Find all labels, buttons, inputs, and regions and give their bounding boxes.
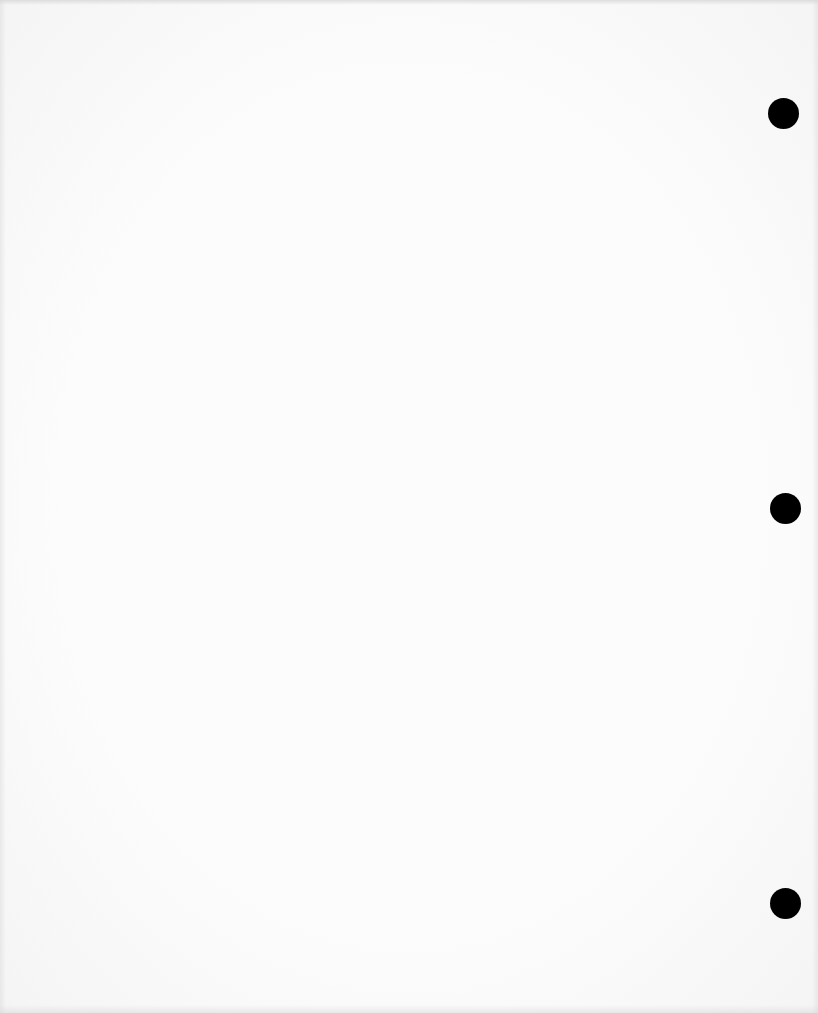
scanned-page bbox=[0, 0, 818, 1013]
scan-edge-left-shadow bbox=[0, 0, 6, 1013]
punch-hole-middle bbox=[770, 493, 801, 524]
punch-hole-bottom bbox=[770, 888, 801, 919]
punch-hole-top bbox=[768, 98, 799, 129]
page-body bbox=[60, 60, 720, 940]
scan-edge-top-shadow bbox=[0, 0, 818, 5]
scan-edge-bottom-shadow bbox=[0, 1005, 818, 1013]
scan-edge-right-shadow bbox=[812, 0, 818, 1013]
